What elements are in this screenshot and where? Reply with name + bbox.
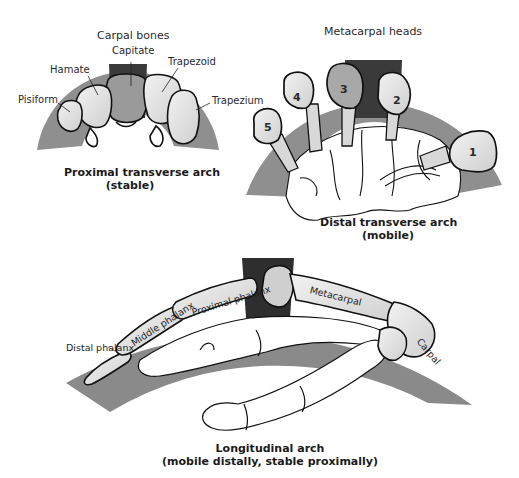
longitudinal-arch-title: Longitudinal arch (mobile distally, stab… (160, 442, 380, 468)
trapezium-label: Trapezium (212, 95, 263, 106)
distal-arch-title-line1: Distal transverse arch (320, 216, 456, 229)
proximal-arch-title-line2: (stable) (64, 179, 196, 192)
thumb-metacarpal-bone (378, 327, 407, 360)
metacarpal-heads-header: Metacarpal heads (324, 25, 422, 38)
longitudinal-arch-title-line1: Longitudinal arch (160, 442, 380, 455)
distal-arch-title: Distal transverse arch (mobile) (320, 216, 456, 242)
svg-text:4: 4 (293, 91, 301, 104)
trapezium-bone (168, 90, 200, 144)
svg-text:2: 2 (393, 94, 401, 107)
svg-text:1: 1 (469, 146, 477, 159)
hamate-label: Hamate (50, 64, 90, 75)
trapezoid-label: Trapezoid (168, 56, 216, 67)
proximal-arch-title-line1: Proximal transverse arch (64, 166, 196, 179)
carpal-bones-header: Carpal bones (97, 29, 169, 42)
distal-phalanx-label: Distal phalanx (66, 342, 134, 353)
svg-text:5: 5 (264, 121, 272, 134)
capitate-label: Capitate (112, 45, 154, 56)
svg-text:3: 3 (340, 83, 348, 96)
trapezium-tubercle (150, 126, 163, 146)
proximal-arch-panel (37, 62, 219, 150)
proximal-arch-title: Proximal transverse arch (stable) (64, 166, 196, 192)
longitudinal-arch-title-line2: (mobile distally, stable proximally) (160, 455, 380, 468)
lower-finger-bones (138, 317, 386, 431)
distal-arch-title-line2: (mobile) (320, 229, 456, 242)
pisiform-label: Pisiform (18, 94, 58, 105)
distal-arch-panel: 5 4 3 2 1 (246, 60, 502, 220)
